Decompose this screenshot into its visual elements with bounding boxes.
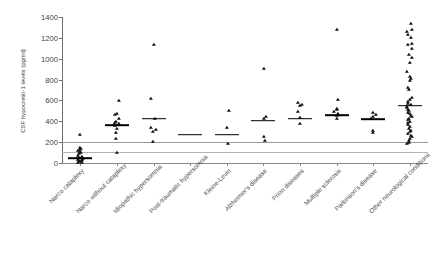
data-point xyxy=(226,142,230,145)
data-point xyxy=(298,122,302,125)
data-point xyxy=(406,86,410,89)
data-point xyxy=(410,47,414,50)
data-point xyxy=(410,42,414,45)
data-point xyxy=(335,107,339,110)
data-point xyxy=(296,110,300,113)
data-point xyxy=(114,120,118,123)
group-mean-bar xyxy=(325,114,349,116)
data-point xyxy=(225,126,229,129)
y-axis-line xyxy=(62,17,63,163)
data-point xyxy=(406,33,410,36)
y-tick-mark xyxy=(59,80,62,81)
data-point xyxy=(405,30,409,33)
y-tick-label: 1200 xyxy=(41,33,58,42)
data-point xyxy=(115,150,119,153)
x-tick-mark xyxy=(373,163,374,166)
y-tick-label: 800 xyxy=(45,75,58,84)
group-mean-bar xyxy=(142,118,166,120)
data-point xyxy=(410,55,414,58)
data-point xyxy=(115,126,119,129)
data-point xyxy=(152,42,156,45)
chart-figure: CSF hypocretin-1 levels (pg/ml) 02004006… xyxy=(0,0,438,254)
x-tick-mark xyxy=(227,163,228,166)
data-point xyxy=(263,138,267,141)
data-point xyxy=(153,127,157,130)
data-point xyxy=(151,140,155,143)
y-tick-mark xyxy=(59,100,62,101)
y-tick-mark xyxy=(59,17,62,18)
data-point xyxy=(409,36,413,39)
data-point xyxy=(296,101,300,104)
data-point xyxy=(114,137,118,140)
data-point xyxy=(371,111,375,114)
data-point xyxy=(410,96,414,99)
data-point xyxy=(227,109,231,112)
data-point xyxy=(117,99,121,102)
data-point xyxy=(336,98,340,101)
reference-line-upper-cutoff xyxy=(62,142,428,143)
y-tick-label: 0 xyxy=(54,159,58,168)
plot-area: 0200400600800100012001400 xyxy=(62,17,428,163)
data-point xyxy=(149,126,153,129)
group-mean-bar xyxy=(68,157,92,159)
group-mean-bar xyxy=(215,134,239,136)
data-point xyxy=(371,128,375,131)
x-tick-mark xyxy=(337,163,338,166)
data-point xyxy=(335,117,339,120)
y-tick-mark xyxy=(59,121,62,122)
x-tick-mark xyxy=(300,163,301,166)
data-point xyxy=(262,135,266,138)
y-axis-title: CSF hypocretin-1 levels (pg/ml) xyxy=(16,11,30,171)
group-mean-bar xyxy=(398,105,422,107)
data-point xyxy=(408,75,412,78)
group-mean-bar xyxy=(288,118,312,120)
data-point xyxy=(407,52,411,55)
data-point xyxy=(408,61,412,64)
y-tick-mark xyxy=(59,38,62,39)
y-tick-label: 400 xyxy=(45,117,58,126)
data-point xyxy=(115,112,119,115)
data-point xyxy=(78,133,82,136)
y-tick-mark xyxy=(59,59,62,60)
data-point xyxy=(78,146,82,149)
data-point xyxy=(117,117,121,120)
y-tick-label: 600 xyxy=(45,96,58,105)
data-point xyxy=(262,67,266,70)
group-mean-bar xyxy=(178,134,202,136)
data-point xyxy=(264,114,268,117)
data-point xyxy=(409,22,413,25)
y-tick-label: 1400 xyxy=(41,13,58,22)
group-mean-bar xyxy=(361,118,385,120)
group-mean-bar xyxy=(105,124,129,126)
data-point xyxy=(405,70,409,73)
data-point xyxy=(114,131,118,134)
data-point xyxy=(300,102,304,105)
y-tick-label: 1000 xyxy=(41,54,58,63)
data-point xyxy=(410,27,414,30)
x-tick-mark xyxy=(263,163,264,166)
data-point xyxy=(335,27,339,30)
group-mean-bar xyxy=(251,120,275,122)
y-tick-label: 200 xyxy=(45,138,58,147)
y-tick-mark xyxy=(59,163,62,164)
data-point xyxy=(149,97,153,100)
